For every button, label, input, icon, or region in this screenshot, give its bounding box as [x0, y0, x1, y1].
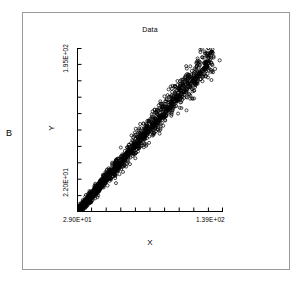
y-axis-min-label: 2.20E+01: [62, 168, 69, 197]
y-axis-title: Y: [47, 125, 56, 130]
x-axis-max-label: 1.39E+02: [196, 216, 225, 223]
x-axis-min-label: 2.90E+01: [63, 216, 92, 223]
scatter-plot-svg: [77, 48, 223, 212]
x-axis-ticks: [78, 208, 223, 212]
panel-letter-label: B: [6, 128, 12, 138]
chart-screenshot: B Data 1.95E+02 2.20E+01 2.90E+01 1.39E+…: [0, 0, 304, 281]
plot-area: [77, 48, 223, 212]
chart-title: Data: [77, 26, 223, 33]
x-axis-title: X: [77, 238, 223, 247]
y-axis-ticks: [78, 49, 82, 212]
scatter-points: [77, 48, 221, 212]
y-axis-max-label: 1.95E+02: [62, 44, 69, 73]
